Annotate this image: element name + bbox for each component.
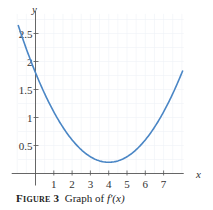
svg-text:7: 7 [161,178,167,190]
svg-text:1: 1 [27,112,33,124]
ticks: 12345670.511.522.5 [19,28,167,190]
svg-text:5: 5 [124,178,130,190]
grid [17,14,184,174]
svg-text:6: 6 [143,178,149,190]
figure-caption: Figure 3 Graph of f′(x) [16,192,125,204]
svg-text:1: 1 [51,178,57,190]
svg-text:0.5: 0.5 [19,140,33,152]
curve-f-prime [18,25,183,162]
chart: 12345670.511.522.5 x y [0,0,213,190]
svg-text:4: 4 [106,178,112,190]
x-axis-label: x [195,168,201,180]
figure-label: Figure [16,192,51,204]
svg-text:1.5: 1.5 [19,84,33,96]
figure-number: 3 [54,192,60,204]
svg-text:3: 3 [88,178,94,190]
y-axis-label: y [31,3,37,15]
caption-function: f′(x) [107,192,125,204]
svg-text:2: 2 [69,178,75,190]
caption-text: Graph of [65,192,107,204]
